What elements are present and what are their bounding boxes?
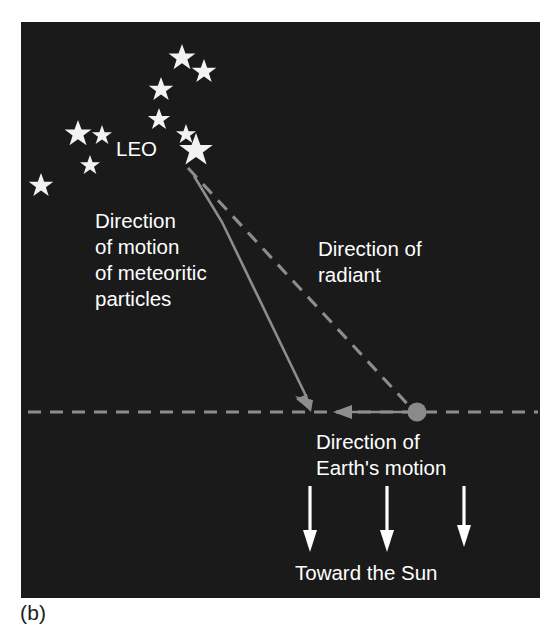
diagram-panel: LEO Direction of motion of meteoritic pa… xyxy=(21,22,540,598)
figure-caption: (b) xyxy=(20,601,46,625)
constellation-star-field xyxy=(29,44,217,196)
label-radiant-direction-line2: radiant xyxy=(318,263,381,286)
star-leo-8 xyxy=(92,125,112,144)
earth-dot xyxy=(408,403,427,422)
label-radiant-direction: Direction of radiant xyxy=(318,237,422,286)
sun-arrow-3-head xyxy=(457,525,471,547)
label-meteor-direction-line3: of meteoritic xyxy=(95,261,207,284)
sun-arrow-1-head xyxy=(303,530,317,552)
label-leo: LEO xyxy=(116,137,157,160)
star-leo-9 xyxy=(80,155,100,174)
meteor-path-line xyxy=(194,176,306,396)
star-leo-3 xyxy=(149,77,174,100)
label-toward-the-sun: Toward the Sun xyxy=(295,561,437,584)
label-meteor-direction-line1: Direction xyxy=(95,209,176,232)
label-meteor-direction-line4: particles xyxy=(95,287,171,310)
meteor-path-arrow-head-fill xyxy=(295,396,313,412)
earth-motion-arrow-head xyxy=(333,405,352,419)
label-meteor-direction-line2: of motion xyxy=(95,235,179,258)
star-leo-10 xyxy=(29,173,54,196)
star-leo-7 xyxy=(65,120,92,145)
label-earth-motion: Direction of Earth's motion xyxy=(316,430,446,479)
radiant-direction-line xyxy=(188,168,413,410)
label-meteor-direction: Direction of motion of meteoritic partic… xyxy=(95,209,207,310)
figure-root: LEO Direction of motion of meteoritic pa… xyxy=(0,0,545,641)
label-earth-motion-line1: Direction of xyxy=(316,430,420,453)
star-leo-2 xyxy=(192,59,217,82)
toward-sun-arrows xyxy=(303,486,471,552)
star-leo-5 xyxy=(176,124,196,143)
diagram-svg: LEO Direction of motion of meteoritic pa… xyxy=(21,22,540,598)
star-leo-4 xyxy=(148,108,170,129)
star-leo-1 xyxy=(169,44,196,69)
label-earth-motion-line2: Earth's motion xyxy=(316,456,446,479)
label-radiant-direction-line1: Direction of xyxy=(318,237,422,260)
sun-arrow-2-head xyxy=(380,530,394,552)
